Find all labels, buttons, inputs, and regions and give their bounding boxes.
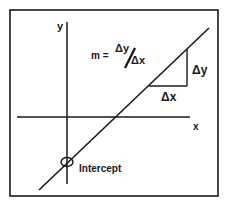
rise-label: Δy [192, 63, 208, 77]
formula-denominator: Δx [131, 54, 146, 66]
slope-diagram: y x Δy Δx m = Δy Δx Intercept [0, 0, 226, 208]
y-axis-label: y [57, 20, 64, 32]
x-axis-label: x [193, 121, 199, 132]
formula-numerator: Δy [115, 42, 130, 54]
run-label: Δx [161, 90, 177, 104]
intercept-label: Intercept [79, 163, 122, 174]
formula-lhs: m = [91, 50, 109, 61]
